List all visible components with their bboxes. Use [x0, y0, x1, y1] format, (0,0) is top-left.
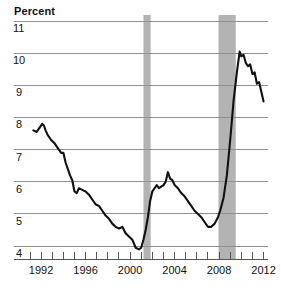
x-tick-label-1996: 1996 [66, 264, 106, 276]
y-tick-label-9: 9 [16, 86, 22, 98]
y-tick-label-11: 11 [13, 22, 24, 34]
x-tick-label-2008: 2008 [199, 264, 239, 276]
x-tick-label-2012: 2012 [244, 264, 281, 276]
unemployment-rate-chart: Percent 1110987654 199219962000200420082… [0, 0, 281, 290]
y-tick-label-5: 5 [16, 215, 22, 227]
y-tick-label-4: 4 [16, 247, 22, 259]
shaded-band-recession-2008 [219, 15, 236, 259]
y-tick-label-10: 10 [13, 54, 25, 66]
y-tick-label-8: 8 [16, 118, 22, 130]
chart-plot-area [0, 0, 281, 290]
x-tick-label-1992: 1992 [21, 264, 61, 276]
recession-bands-group [143, 15, 235, 259]
x-tick-label-2000: 2000 [110, 264, 150, 276]
y-tick-label-6: 6 [16, 183, 22, 195]
y-tick-label-7: 7 [16, 151, 22, 163]
x-tick-label-2004: 2004 [155, 264, 195, 276]
